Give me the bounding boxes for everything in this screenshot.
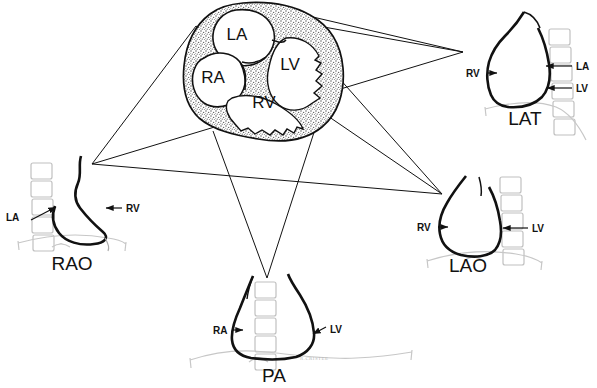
pa-spine [255, 282, 276, 370]
view-lat: RV LA LV LAT [466, 12, 589, 140]
vertebra [553, 101, 574, 117]
lat-spine [549, 29, 575, 135]
pa-callout-ra: RA [213, 325, 227, 336]
vertebra [551, 65, 572, 81]
pa-title: PA [262, 365, 286, 386]
chamber-label-lv: LV [280, 55, 300, 74]
vertebra [32, 217, 53, 233]
rao-callout-rv: RV [126, 203, 140, 214]
vertebra [552, 83, 573, 99]
view-pa: RA LV R.CRISTEE PA [190, 274, 412, 386]
lat-callout-la: LA [576, 61, 589, 72]
vertebra [502, 231, 523, 247]
view-rao: LA RV RAO [6, 156, 140, 274]
ray-rao-return [92, 164, 442, 194]
vertebra [500, 177, 521, 193]
lao-spine [500, 177, 524, 265]
central-heart-cross-section: LA RA LV RV [183, 3, 343, 141]
ray-to-lao-a [330, 68, 442, 194]
lao-title: LAO [449, 255, 487, 276]
lat-callout-lv: LV [576, 83, 588, 94]
rao-callout-la: LA [6, 212, 19, 223]
chamber-label-rv: RV [252, 93, 276, 112]
vertebra [550, 47, 571, 63]
diagram-canvas: LA RA LV RV LA RV RAO [0, 0, 597, 388]
vertebra [255, 300, 276, 316]
vertebra [255, 282, 276, 298]
vertebra [32, 199, 53, 215]
rao-callouts: LA RV [6, 203, 140, 223]
pa-callout-lv: LV [330, 324, 342, 335]
artist-signature: R.CRISTEE [300, 356, 328, 361]
ray-to-pa-b [267, 120, 318, 278]
lat-outflow-line [524, 12, 540, 28]
rao-heart-border [53, 156, 106, 245]
vertebra [255, 318, 276, 334]
lat-callout-rv: RV [466, 68, 480, 79]
lao-heart-border [439, 176, 501, 257]
ray-to-pa-a [213, 131, 267, 278]
vertebra [503, 249, 524, 265]
vertebra [501, 195, 522, 211]
vertebra [31, 181, 52, 197]
lat-heart-border [487, 12, 549, 107]
vertebra [255, 336, 276, 352]
lao-callout-lv: LV [532, 223, 544, 234]
lao-callout-rv: RV [417, 222, 431, 233]
ray-to-rao-a [92, 26, 196, 164]
chamber-label-la: LA [227, 25, 248, 44]
rao-apex-tail [105, 238, 109, 251]
lao-outflow-line [479, 177, 481, 196]
rao-title: RAO [51, 253, 92, 274]
vertebra [502, 213, 523, 229]
chamber-label-ra: RA [201, 68, 225, 87]
cardiac-projection-figure: LA RA LV RV LA RV RAO [0, 0, 597, 388]
lat-title: LAT [508, 108, 542, 129]
view-lao: RV LV LAO [417, 176, 544, 276]
vertebra [554, 119, 575, 135]
vertebra [549, 29, 570, 45]
vertebra [31, 163, 52, 179]
lao-callouts: RV LV [417, 222, 544, 234]
